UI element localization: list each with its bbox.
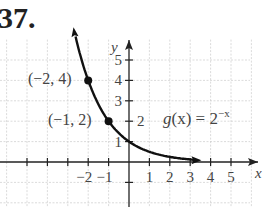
y-tick-label: 3 (115, 93, 123, 109)
point-label-2: (−1, 2) (48, 111, 92, 129)
x-tick-label: −1 (97, 169, 113, 185)
axes (0, 40, 258, 207)
y-tick-label: 2 (137, 113, 145, 129)
problem-number: 37. (0, 1, 36, 34)
x-tick-label: 1 (146, 169, 154, 185)
point-marker (84, 76, 92, 84)
graph-figure: 37. −2−11234513452 g(x) = 2−x (−2, 4) (−… (0, 0, 264, 207)
y-axis-label: y (109, 39, 118, 55)
coordinate-plane: 37. −2−11234513452 g(x) = 2−x (−2, 4) (−… (0, 0, 264, 207)
y-tick-label: 4 (115, 72, 123, 88)
x-axis-label: x (254, 165, 262, 181)
x-tick-label: 4 (207, 169, 215, 185)
x-tick-label: −2 (76, 169, 92, 185)
plotted-points (72, 27, 202, 164)
point-label-1: (−2, 4) (28, 70, 72, 88)
function-curve (76, 37, 196, 160)
x-tick-label: 3 (186, 169, 194, 185)
function-label: g(x) = 2−x (163, 107, 230, 128)
x-tick-label: 5 (227, 169, 235, 185)
point-marker (105, 117, 113, 125)
x-tick-label: 2 (166, 169, 174, 185)
y-tick-label: 1 (115, 134, 123, 150)
